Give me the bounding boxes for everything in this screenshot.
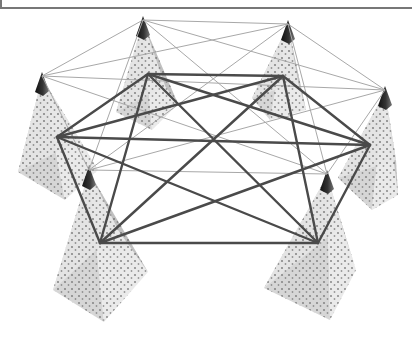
pyramid-p6 (264, 170, 356, 320)
pyramid-p2 (252, 20, 306, 120)
center-edge (148, 74, 283, 76)
apex-edge (143, 20, 288, 24)
apex-cap-icon (136, 16, 150, 40)
pyramid-layer (18, 16, 398, 322)
pyramid-network-diagram (0, 0, 413, 341)
apex-edge (42, 24, 288, 76)
apex-edge (42, 20, 143, 76)
